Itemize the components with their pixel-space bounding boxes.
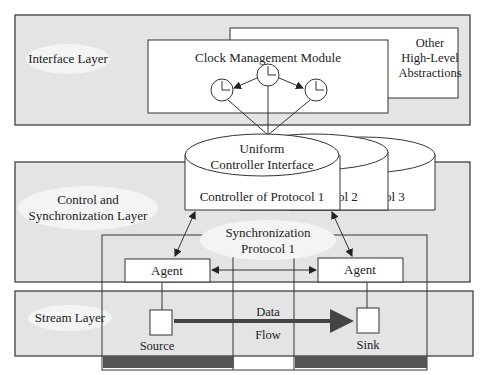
clock-module-label: Clock Management Module (195, 50, 341, 65)
agent-left-label: Agent (151, 263, 183, 278)
shadow-bar-right (295, 356, 427, 368)
other-label-1: Other (416, 36, 445, 50)
interface-layer-label: Interface Layer (28, 51, 108, 66)
other-label-3: Abstractions (398, 66, 461, 80)
sync-protocol-label-2: Protocol 1 (241, 241, 295, 256)
clock-icon (211, 79, 233, 101)
clock-icon (305, 79, 327, 101)
shadow-bar-left (103, 356, 234, 368)
sink-box: Sink (357, 308, 381, 352)
control-layer-label-2: Synchronization Layer (29, 208, 148, 223)
clock-icon (257, 64, 279, 86)
source-label: Source (140, 339, 175, 353)
data-label: Data (256, 305, 280, 319)
architecture-diagram: Interface Layer Other High-Level Abstrac… (0, 0, 485, 375)
control-layer-label-1: Control and (57, 192, 119, 207)
other-label-2: High-Level (401, 51, 459, 65)
agent-right: Agent (318, 258, 403, 282)
sink-label: Sink (357, 338, 381, 352)
controller-protocol-1: Uniform Controller Interface Controller … (185, 134, 340, 210)
stream-layer: Stream Layer (15, 291, 473, 356)
uniform-interface-label-1: Uniform (240, 141, 285, 156)
agent-left: Agent (125, 259, 210, 282)
sync-protocol-label-1: Synchronization (225, 225, 311, 240)
stream-layer-label: Stream Layer (35, 310, 106, 325)
flow-label: Flow (255, 328, 281, 342)
agent-right-label: Agent (344, 262, 376, 277)
uniform-interface-label-2: Controller Interface (211, 157, 314, 172)
controller-1-label: Controller of Protocol 1 (200, 189, 325, 204)
